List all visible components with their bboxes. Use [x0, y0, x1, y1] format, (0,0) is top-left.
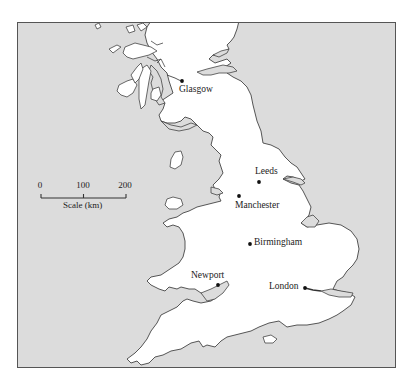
scale-tick-100: 100 [76, 181, 90, 190]
city-label-leeds: Leeds [255, 167, 278, 177]
city-label-london: London [269, 282, 299, 292]
city-dot-manchester[interactable] [237, 194, 241, 198]
scale-caption: Scale (km) [63, 201, 102, 210]
city-dot-glasgow[interactable] [180, 79, 184, 83]
scale-tick-200: 200 [118, 181, 132, 190]
city-label-birmingham: Birmingham [254, 238, 302, 248]
city-dot-leeds[interactable] [257, 180, 261, 184]
city-dot-london[interactable] [303, 286, 307, 290]
city-dot-birmingham[interactable] [248, 242, 252, 246]
map-frame [17, 22, 396, 368]
scale-tick-0: 0 [38, 181, 43, 190]
city-label-newport: Newport [191, 271, 224, 281]
city-label-manchester: Manchester [235, 201, 279, 211]
city-label-glasgow: Glasgow [179, 85, 213, 95]
anglesey [165, 197, 183, 209]
map-canvas [17, 22, 396, 368]
city-dot-newport[interactable] [216, 283, 220, 287]
